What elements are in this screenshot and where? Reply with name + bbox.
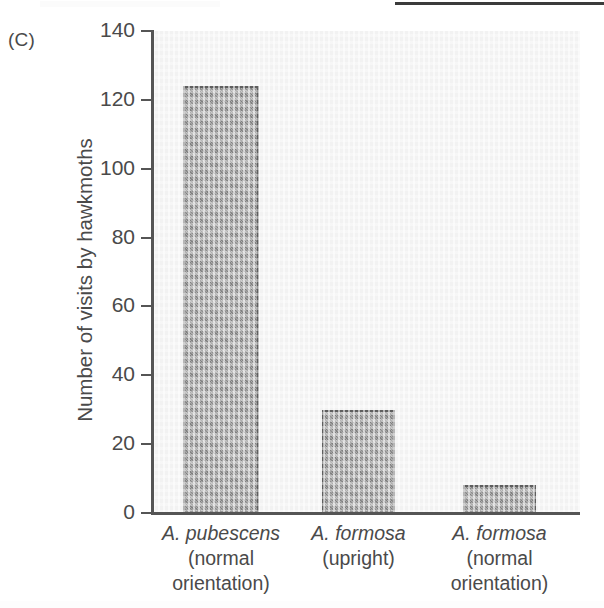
y-axis-tick-label: 140 bbox=[65, 18, 135, 42]
y-axis-tick-label: 120 bbox=[65, 87, 135, 111]
figure-panel-c: (C) Number of visits by hawkmoths 140120… bbox=[0, 0, 604, 608]
x-axis-line bbox=[151, 512, 580, 515]
y-axis-tick bbox=[141, 443, 152, 445]
x-axis-category-label: A. formosa(normalorientation) bbox=[400, 521, 600, 596]
x-axis-category-label-line: orientation) bbox=[121, 571, 321, 596]
y-axis-tick bbox=[141, 237, 152, 239]
y-axis-title: Number of visits by hawkmoths bbox=[73, 70, 97, 490]
panel-label: (C) bbox=[8, 29, 35, 51]
x-axis-category-label-line: A. formosa bbox=[400, 521, 600, 546]
y-axis-tick-label: 100 bbox=[65, 156, 135, 180]
y-axis-tick bbox=[141, 512, 152, 514]
bar bbox=[322, 410, 395, 513]
bar bbox=[183, 86, 259, 513]
bar bbox=[463, 485, 536, 513]
y-axis-tick-label: 40 bbox=[65, 362, 135, 386]
x-axis-category-label-line: (normal bbox=[400, 546, 600, 571]
scan-artifact-rule-top-right bbox=[395, 2, 604, 5]
scan-artifact-bottom bbox=[0, 601, 604, 608]
y-axis-tick-label: 20 bbox=[65, 431, 135, 455]
plot-area bbox=[153, 31, 580, 513]
y-axis-tick bbox=[141, 374, 152, 376]
y-axis-tick bbox=[141, 99, 152, 101]
scan-artifact-top-left bbox=[40, 1, 220, 7]
y-axis-tick-label: 80 bbox=[65, 225, 135, 249]
y-axis-tick bbox=[141, 30, 152, 32]
y-axis-tick bbox=[141, 168, 152, 170]
y-axis-tick bbox=[141, 305, 152, 307]
y-axis-tick-label: 60 bbox=[65, 293, 135, 317]
x-axis-category-label-line: orientation) bbox=[400, 571, 600, 596]
